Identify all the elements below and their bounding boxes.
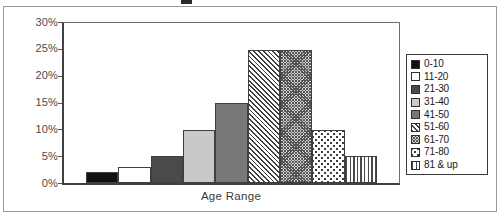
y-axis: 30%25%20%15%10%5%0%	[0, 0, 58, 219]
legend-swatch-icon	[411, 98, 420, 107]
plot-area	[62, 22, 400, 185]
legend-swatch-icon	[411, 135, 420, 144]
legend-swatch-icon	[411, 123, 420, 132]
legend-item-51-60: 51-60	[411, 121, 484, 134]
legend-item-41-50: 41-50	[411, 108, 484, 121]
legend-item-label: 81 & up	[424, 160, 458, 170]
legend-item-label: 21-30	[424, 84, 449, 94]
legend-item-81-up: 81 & up	[411, 159, 484, 172]
bar-21-30	[151, 156, 183, 183]
legend-swatch-icon	[411, 110, 420, 119]
legend-item-21-30: 21-30	[411, 83, 484, 96]
legend-item-label: 31-40	[424, 97, 449, 107]
y-axis-tick-label: 10%	[6, 124, 58, 135]
legend-swatch-icon	[411, 85, 420, 94]
y-axis-tick-label: 30%	[6, 17, 58, 28]
bar-61-70	[280, 50, 312, 183]
legend-swatch-icon	[411, 161, 420, 170]
legend-item-label: 0-10	[424, 59, 444, 69]
legend-item-11-20: 11-20	[411, 71, 484, 84]
legend-swatch-icon	[411, 148, 420, 157]
legend-item-label: 51-60	[424, 122, 449, 132]
bar-81-up	[345, 156, 377, 183]
bar-0-10	[86, 172, 118, 183]
chart-title-fragment	[181, 0, 192, 4]
legend-item-61-70: 61-70	[411, 134, 484, 147]
legend-item-0-10: 0-10	[411, 58, 484, 71]
bar-51-60	[248, 50, 280, 183]
y-axis-tick-label: 0%	[6, 178, 58, 189]
y-axis-tick-label: 20%	[6, 70, 58, 81]
legend-item-label: 61-70	[424, 135, 449, 145]
y-axis-tick-label: 15%	[6, 97, 58, 108]
y-axis-tick-label: 25%	[6, 43, 58, 54]
y-axis-tick-label: 5%	[6, 151, 58, 162]
legend-item-label: 71-80	[424, 147, 449, 157]
legend-item-label: 11-20	[424, 72, 448, 82]
legend-item-label: 41-50	[424, 110, 449, 120]
chart-figure: 30%25%20%15%10%5%0% Age Range 0-1011-202…	[0, 0, 501, 219]
legend-swatch-icon	[411, 60, 420, 69]
legend: 0-1011-2021-3031-4041-5051-6061-7071-808…	[406, 54, 488, 175]
bar-31-40	[183, 130, 215, 183]
legend-swatch-icon	[411, 72, 420, 81]
bar-series	[64, 23, 399, 183]
x-axis-label: Age Range	[62, 190, 400, 202]
legend-item-31-40: 31-40	[411, 96, 484, 109]
bar-41-50	[215, 103, 247, 183]
bar-11-20	[118, 167, 150, 183]
legend-item-71-80: 71-80	[411, 146, 484, 159]
bar-71-80	[312, 130, 344, 183]
